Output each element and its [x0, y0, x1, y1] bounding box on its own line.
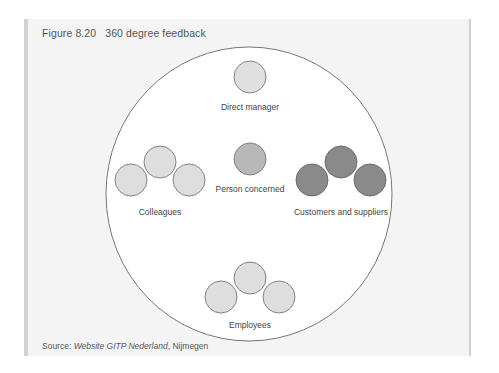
- node-circle: [325, 146, 357, 178]
- label-person-concerned: Person concerned: [216, 184, 285, 194]
- node-circle: [205, 281, 237, 313]
- label-direct-manager: Direct manager: [221, 102, 279, 112]
- node-circle: [144, 146, 176, 178]
- node-circle: [115, 164, 147, 196]
- source-note: Source: Website GITP Nederland, Nijmegen: [42, 341, 208, 351]
- source-text: Website GITP Nederland: [74, 341, 168, 351]
- node-circle: [296, 164, 328, 196]
- node-circle: [234, 61, 266, 93]
- node-circle: [263, 281, 295, 313]
- node-circle: [354, 164, 386, 196]
- label-colleagues: Colleagues: [139, 207, 182, 217]
- source-suffix: , Nijmegen: [168, 341, 209, 351]
- label-employees: Employees: [229, 320, 271, 330]
- node-circle: [234, 143, 266, 175]
- feedback-diagram: Direct manager Person concerned Colleagu…: [0, 0, 499, 373]
- node-circle: [173, 164, 205, 196]
- label-customers-suppliers: Customers and suppliers: [294, 207, 388, 217]
- source-prefix: Source:: [42, 341, 74, 351]
- node-circle: [234, 262, 266, 294]
